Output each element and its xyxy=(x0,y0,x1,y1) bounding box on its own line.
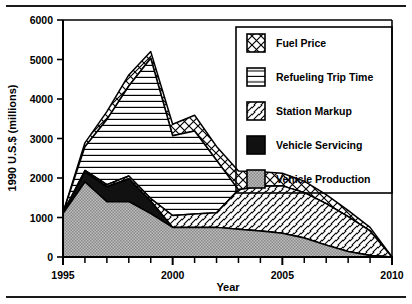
legend-label: Station Markup xyxy=(276,105,352,117)
legend-item-vehicle-servicing[interactable]: Vehicle Servicing xyxy=(247,136,362,154)
y-tick-label: 5000 xyxy=(30,54,54,66)
legend-item-station-markup[interactable]: Station Markup xyxy=(247,102,352,120)
legend-label: Vehicle Production xyxy=(276,173,371,185)
y-tick-label: 1000 xyxy=(30,212,54,224)
y-tick-label: 6000 xyxy=(30,14,54,26)
page-rule-bottom xyxy=(6,296,406,298)
y-tick-label: 4000 xyxy=(30,93,54,105)
figure-container: 0100020003000400050006000 19952000200520… xyxy=(0,0,412,304)
x-tick-label: 2000 xyxy=(161,269,185,281)
legend-swatch-diagonal-hatch-icon xyxy=(247,102,265,120)
legend-label: Refueling Trip Time xyxy=(276,71,373,83)
y-tick-label: 2000 xyxy=(30,172,54,184)
y-tick-label: 3000 xyxy=(30,133,54,145)
legend-swatch-solid-grey-icon xyxy=(247,170,265,188)
legend-label: Fuel Price xyxy=(276,37,326,49)
x-axis-tick-labels: 1995200020052010 xyxy=(51,269,404,281)
x-tick-label: 1995 xyxy=(51,269,75,281)
legend-item-refueling-trip-time[interactable]: Refueling Trip Time xyxy=(247,68,373,86)
x-tick-label: 2005 xyxy=(271,269,295,281)
legend-item-fuel-price[interactable]: Fuel Price xyxy=(247,34,326,52)
page-rule-top xyxy=(6,5,406,7)
y-axis-title: 1990 U.S.$ (millions) xyxy=(6,84,18,191)
y-tick-label: 0 xyxy=(47,251,53,263)
legend-label: Vehicle Servicing xyxy=(276,139,362,151)
x-axis-ticks xyxy=(63,257,392,265)
x-axis-title: Year xyxy=(216,281,240,293)
x-tick-label: 2010 xyxy=(380,269,404,281)
legend-swatch-crosshatch-icon xyxy=(247,34,265,52)
y-axis-tick-labels: 0100020003000400050006000 xyxy=(30,14,54,263)
legend: Fuel PriceRefueling Trip TimeStation Mar… xyxy=(236,27,392,193)
stacked-area-chart: 0100020003000400050006000 19952000200520… xyxy=(0,0,412,304)
legend-swatch-horizontal-hatch-icon xyxy=(247,68,265,86)
legend-swatch-solid-black-icon xyxy=(247,136,265,154)
